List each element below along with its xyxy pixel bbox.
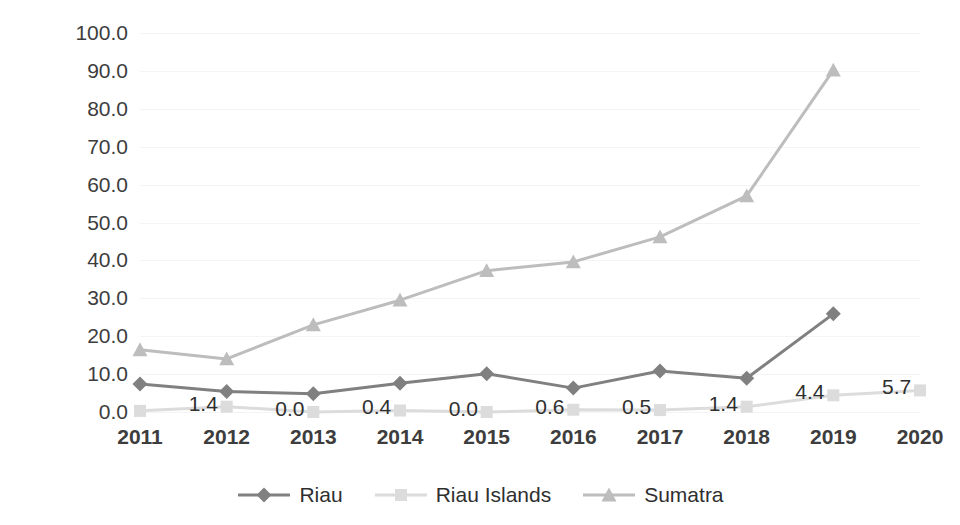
data-point-marker [654,404,666,416]
data-point-marker [306,386,321,401]
data-point-marker [567,404,579,416]
x-tick-label: 2012 [182,425,272,449]
data-label: 1.4 [189,392,218,413]
chart-legend: RiauRiau IslandsSumatra [0,484,960,505]
data-point-marker [481,406,493,418]
y-tick-label: 50.0 [18,212,128,233]
data-point-marker [653,229,668,243]
y-tick-label: 30.0 [18,287,128,308]
x-tick-label: 2015 [442,425,532,449]
data-label: 0.6 [535,395,564,416]
data-point-marker [257,487,272,502]
y-tick-label: 80.0 [18,98,128,119]
series-line [140,70,833,359]
x-tick-label: 2019 [788,425,878,449]
data-label: 0.4 [362,396,391,417]
data-label: 0.0 [449,398,478,419]
x-tick-label: 2016 [528,425,618,449]
series-sumatra [133,63,841,366]
data-label: 0.0 [275,398,304,419]
line-chart: 100.090.080.070.060.050.040.030.020.010.… [0,0,960,525]
legend-item-riau[interactable]: Riau [236,484,342,505]
legend-label: Riau [299,484,342,505]
y-tick-label: 70.0 [18,136,128,157]
data-point-marker [914,384,926,396]
legend-item-sumatra[interactable]: Sumatra [581,484,723,505]
data-point-marker [393,376,408,391]
x-tick-label: 2017 [615,425,705,449]
legend-key-icon [373,485,429,505]
x-tick-label: 2011 [95,425,185,449]
legend-label: Riau Islands [436,484,552,505]
data-point-marker [395,489,407,501]
legend-item-riau-islands[interactable]: Riau Islands [373,484,552,505]
x-tick-label: 2020 [875,425,960,449]
data-point-marker [221,401,233,413]
x-tick-label: 2014 [355,425,445,449]
legend-key-icon [581,485,637,505]
data-point-marker [479,366,494,381]
data-point-marker [307,406,319,418]
data-point-marker [827,389,839,401]
data-point-marker [566,381,581,396]
data-point-marker [653,364,668,379]
data-label: 1.4 [709,392,738,413]
legend-key-icon [236,485,292,505]
data-point-marker [741,401,753,413]
y-tick-label: 40.0 [18,249,128,270]
data-label: 5.7 [882,376,911,397]
plot-area: 1.40.00.40.00.60.51.44.45.7 [140,33,920,412]
x-tick-label: 2018 [702,425,792,449]
y-tick-label: 20.0 [18,325,128,346]
y-tick-label: 60.0 [18,174,128,195]
data-point-marker [219,384,234,399]
x-axis-tick-labels: 2011201220132014201520162017201820192020 [140,425,920,457]
data-point-marker [133,376,148,391]
data-point-marker [394,404,406,416]
data-label: 0.5 [622,396,651,417]
y-tick-label: 0.0 [18,401,128,422]
y-tick-label: 90.0 [18,60,128,81]
data-label: 4.4 [795,381,824,402]
y-tick-label: 10.0 [18,363,128,384]
series-line [140,314,833,394]
x-tick-label: 2013 [268,425,358,449]
series-layer [140,33,920,412]
legend-label: Sumatra [644,484,723,505]
y-tick-label: 100.0 [18,22,128,43]
data-point-marker [826,63,841,77]
data-point-marker [134,405,146,417]
